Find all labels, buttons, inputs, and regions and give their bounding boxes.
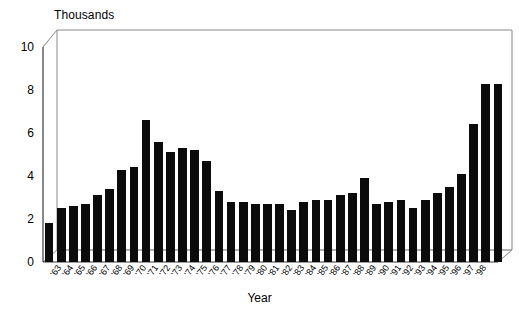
bar-front-face xyxy=(166,152,175,262)
bar xyxy=(81,204,90,262)
bar-front-face xyxy=(348,193,357,262)
bar xyxy=(348,193,357,262)
x-axis-tick-labels: '63'64'65'66'67'68'69'70'71'72'73'74'75'… xyxy=(43,263,513,293)
bar-front-face xyxy=(421,200,430,262)
plot-area xyxy=(43,47,504,262)
bar-front-face xyxy=(263,204,272,262)
bar xyxy=(105,189,114,262)
bar-front-face xyxy=(312,200,321,262)
bar xyxy=(57,208,66,262)
x-tick-label-98: '98 xyxy=(473,263,488,278)
bar xyxy=(397,200,406,262)
bar-front-face xyxy=(45,223,54,262)
bar xyxy=(324,200,333,262)
bar xyxy=(409,208,418,262)
bar-chart: Thousands 0246810 '63'64'65'66'67'68'69'… xyxy=(0,0,519,314)
bar xyxy=(69,206,78,262)
bar-front-face xyxy=(117,170,126,262)
bar-front-face xyxy=(130,167,139,262)
bar-front-face xyxy=(275,204,284,262)
bar-front-face xyxy=(105,189,114,262)
bar xyxy=(372,204,381,262)
bar-front-face xyxy=(299,202,308,262)
bar-front-face xyxy=(469,124,478,262)
bar-front-face xyxy=(481,84,490,262)
bar-front-face xyxy=(57,208,66,262)
bar-front-face xyxy=(81,204,90,262)
bar xyxy=(299,202,308,262)
y-axis-tick-labels: 0246810 xyxy=(0,0,34,314)
y-tick-label-0: 0 xyxy=(2,255,34,269)
bar-front-face xyxy=(457,174,466,262)
bar xyxy=(190,150,199,262)
bar xyxy=(360,178,369,262)
bar xyxy=(178,148,187,262)
bar-front-face xyxy=(69,206,78,262)
bar-front-face xyxy=(178,148,187,262)
y-tick-label-2: 2 xyxy=(2,212,34,226)
bar-front-face xyxy=(239,202,248,262)
y-tick-label-6: 6 xyxy=(2,126,34,140)
bar-front-face xyxy=(336,195,345,262)
bar-front-face xyxy=(93,195,102,262)
bar xyxy=(45,223,54,262)
bar xyxy=(312,200,321,262)
bar-front-face xyxy=(372,204,381,262)
bar-front-face xyxy=(433,193,442,262)
bar-front-face xyxy=(494,84,503,262)
bar xyxy=(166,152,175,262)
bar-front-face xyxy=(215,191,224,262)
bar-front-face xyxy=(251,204,260,262)
bar-front-face xyxy=(445,187,454,262)
bar xyxy=(263,204,272,262)
bar-front-face xyxy=(227,202,236,262)
y-tick-label-4: 4 xyxy=(2,169,34,183)
bar xyxy=(239,202,248,262)
bar xyxy=(457,174,466,262)
bar-front-face xyxy=(360,178,369,262)
bar xyxy=(142,120,151,262)
bar xyxy=(215,191,224,262)
bar-front-face xyxy=(202,161,211,262)
bar-front-face xyxy=(409,208,418,262)
bar xyxy=(154,142,163,262)
x-axis-title: Year xyxy=(0,291,519,305)
bar xyxy=(251,204,260,262)
bar xyxy=(445,187,454,262)
y-tick-label-8: 8 xyxy=(2,83,34,97)
bar xyxy=(130,167,139,262)
bar xyxy=(384,202,393,262)
bar xyxy=(494,84,503,262)
bar-front-face xyxy=(154,142,163,262)
bar xyxy=(117,170,126,262)
bar-front-face xyxy=(287,210,296,262)
bar xyxy=(481,84,490,262)
bar xyxy=(287,210,296,262)
bar xyxy=(421,200,430,262)
bar-front-face xyxy=(397,200,406,262)
bar xyxy=(433,193,442,262)
bar xyxy=(202,161,211,262)
bar xyxy=(336,195,345,262)
bar xyxy=(227,202,236,262)
y-axis-title: Thousands xyxy=(54,8,114,22)
y-tick-label-10: 10 xyxy=(2,40,34,54)
bar xyxy=(469,124,478,262)
bar-front-face xyxy=(324,200,333,262)
bar xyxy=(93,195,102,262)
bar-front-face xyxy=(142,120,151,262)
bar-front-face xyxy=(384,202,393,262)
bar xyxy=(275,204,284,262)
bar-front-face xyxy=(190,150,199,262)
